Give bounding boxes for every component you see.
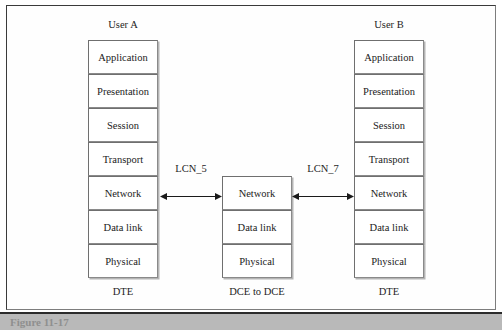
stack-title-user-b: User B: [354, 19, 424, 30]
link-label-lcn-5: LCN_5: [160, 163, 222, 174]
double-arrow-icon-lcn-5: [160, 192, 222, 201]
layer-box-physical-left: Physical: [88, 244, 158, 278]
layer-box-data-link-left: Data link: [88, 210, 158, 244]
layer-box-network-right: Network: [354, 176, 424, 210]
layer-box-physical-middle: Physical: [222, 244, 292, 278]
figure-caption-strip: Figure 11-17: [0, 312, 502, 330]
layer-box-application-right: Application: [354, 40, 424, 74]
layer-box-network-middle: Network: [222, 176, 292, 210]
layer-box-data-link-right: Data link: [354, 210, 424, 244]
layer-box-session-right: Session: [354, 108, 424, 142]
stack-footer-dte-right: DTE: [354, 286, 424, 297]
layer-box-transport-right: Transport: [354, 142, 424, 176]
layer-box-application-left: Application: [88, 40, 158, 74]
layer-box-network-left: Network: [88, 176, 158, 210]
stack-footer-dce-to-dce: DCE to DCE: [205, 286, 309, 297]
layer-box-physical-right: Physical: [354, 244, 424, 278]
stack-title-user-a: User A: [88, 19, 158, 30]
layer-box-session-left: Session: [88, 108, 158, 142]
layer-box-presentation-left: Presentation: [88, 74, 158, 108]
layer-box-data-link-middle: Data link: [222, 210, 292, 244]
layer-box-presentation-right: Presentation: [354, 74, 424, 108]
link-lcn-7: LCN_7: [292, 176, 354, 210]
link-label-lcn-7: LCN_7: [292, 163, 354, 174]
stack-footer-dte-left: DTE: [88, 286, 158, 297]
layer-box-transport-left: Transport: [88, 142, 158, 176]
figure-caption-text: Figure 11-17: [10, 316, 69, 328]
double-arrow-icon-lcn-7: [292, 192, 354, 201]
link-lcn-5: LCN_5: [160, 176, 222, 210]
